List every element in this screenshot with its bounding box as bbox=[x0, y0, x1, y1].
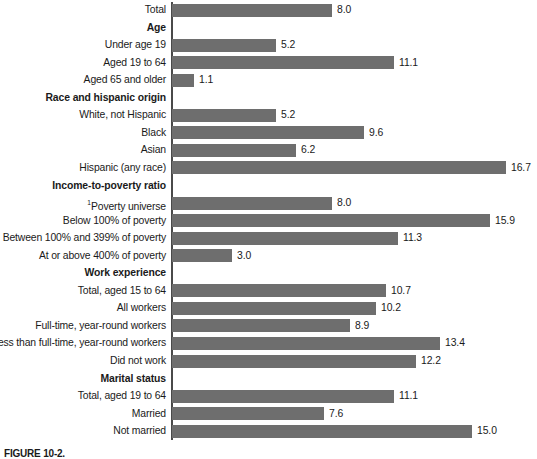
group-header-label: Race and hispanic origin bbox=[0, 91, 166, 105]
bar bbox=[172, 390, 394, 403]
category-label: Married bbox=[0, 407, 166, 421]
category-label: Black bbox=[0, 126, 166, 140]
bar-value-label: 8.9 bbox=[355, 319, 369, 333]
bar bbox=[172, 126, 364, 139]
category-label: Did not work bbox=[0, 354, 166, 368]
bar bbox=[172, 4, 332, 17]
bar-value-label: 9.6 bbox=[369, 126, 383, 140]
bar-value-label: 15.9 bbox=[495, 214, 515, 228]
bar-value-label: 11.1 bbox=[399, 389, 418, 403]
bar-value-label: 8.0 bbox=[337, 3, 351, 17]
bar bbox=[172, 407, 324, 420]
bar bbox=[172, 56, 394, 69]
bar-value-label: 8.0 bbox=[337, 196, 351, 210]
bar bbox=[172, 74, 194, 87]
category-label: Asian bbox=[0, 143, 166, 157]
bar bbox=[172, 161, 506, 174]
category-label: Hispanic (any race) bbox=[0, 161, 166, 175]
bar bbox=[172, 39, 276, 52]
bar-chart-plot-area: Total8.0AgeUnder age 195.2Aged 19 to 641… bbox=[0, 0, 537, 442]
bar-value-label: 5.2 bbox=[281, 38, 295, 52]
bar bbox=[172, 337, 440, 350]
category-label: All workers bbox=[0, 301, 166, 315]
bar-value-label: 11.3 bbox=[403, 231, 422, 245]
figure-caption: FIGURE 10-2. bbox=[4, 448, 533, 459]
bar-value-label: 10.7 bbox=[391, 284, 411, 298]
category-label: 1Poverty universe bbox=[0, 196, 166, 210]
group-header-label: Income-to-poverty ratio bbox=[0, 179, 166, 193]
category-label-text: Poverty universe bbox=[91, 201, 166, 212]
category-label: Total bbox=[0, 3, 166, 17]
category-label: At or above 400% of poverty bbox=[0, 249, 166, 263]
category-label: Full-time, year-round workers bbox=[0, 319, 166, 333]
category-label: Aged 65 and older bbox=[0, 73, 166, 87]
category-label: Under age 19 bbox=[0, 38, 166, 52]
bar-value-label: 12.2 bbox=[421, 354, 441, 368]
bar-value-label: 15.0 bbox=[477, 424, 497, 438]
figure-container: Total8.0AgeUnder age 195.2Aged 19 to 641… bbox=[0, 0, 537, 459]
bar-value-label: 11.1 bbox=[399, 56, 418, 70]
bar-value-label: 6.2 bbox=[301, 143, 315, 157]
bar bbox=[172, 214, 490, 227]
group-header-label: Marital status bbox=[0, 372, 166, 386]
category-label: White, not Hispanic bbox=[0, 108, 166, 122]
bar bbox=[172, 425, 472, 438]
bar-value-label: 13.4 bbox=[445, 336, 465, 350]
bar bbox=[172, 232, 398, 245]
bar-value-label: 10.2 bbox=[381, 301, 401, 315]
bar bbox=[172, 249, 232, 262]
bar bbox=[172, 302, 376, 315]
category-label: Aged 19 to 64 bbox=[0, 56, 166, 70]
group-header-label: Work experience bbox=[0, 266, 166, 280]
bar bbox=[172, 197, 332, 210]
bar-value-label: 16.7 bbox=[511, 161, 531, 175]
category-label: Not married bbox=[0, 424, 166, 438]
bar bbox=[172, 355, 416, 368]
bar bbox=[172, 319, 350, 332]
bar bbox=[172, 109, 276, 122]
figure-caption-label: FIGURE 10-2. bbox=[4, 448, 65, 459]
bar bbox=[172, 284, 386, 297]
bar-value-label: 7.6 bbox=[329, 407, 343, 421]
bar bbox=[172, 144, 296, 157]
category-label: Total, aged 15 to 64 bbox=[0, 284, 166, 298]
category-label: Below 100% of poverty bbox=[0, 214, 166, 228]
category-label: Between 100% and 399% of poverty bbox=[0, 231, 166, 245]
chart-bar-row: Not married15.0 bbox=[0, 424, 537, 444]
bar-value-label: 1.1 bbox=[199, 73, 213, 87]
bar-value-label: 5.2 bbox=[281, 108, 295, 122]
category-label: Total, aged 19 to 64 bbox=[0, 389, 166, 403]
category-label: Less than full-time, year-round workers bbox=[0, 336, 166, 350]
bar-value-label: 3.0 bbox=[237, 249, 251, 263]
group-header-label: Age bbox=[0, 21, 166, 35]
